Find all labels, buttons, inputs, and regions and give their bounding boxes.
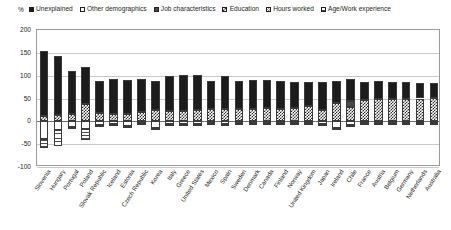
bar-column[interactable] [416,30,425,165]
bar-segment [95,125,104,127]
bar-segment [123,126,132,128]
x-axis-tick-label: Korea [148,168,163,186]
bar-segment [402,123,411,125]
axis-unit-label: % [18,6,24,13]
bar-segment [318,82,327,110]
bar-segment [207,123,216,125]
legend-swatch-hours-worked [266,7,271,12]
bar-segment [402,82,411,99]
bar-column[interactable] [179,30,188,165]
legend-swatch-job-characteristics [154,7,159,12]
chart-legend: % Unexplained Other demographics Job cha… [18,6,398,13]
bar-column[interactable] [165,30,174,165]
bar-segment [290,82,299,108]
bar-column[interactable] [40,30,49,165]
x-axis-tick-label: France [356,168,372,188]
bar-segment [179,124,188,126]
bar-segment [193,75,202,111]
bar-column[interactable] [388,30,397,165]
bar-column[interactable] [109,30,118,165]
bar-segment [123,114,132,121]
bar-segment [40,121,49,138]
legend-item-unexplained: Unexplained [29,6,73,13]
bar-segment [304,82,313,106]
bar-column[interactable] [68,30,77,165]
bar-column[interactable] [304,30,313,165]
bar-segment [430,98,439,122]
y-axis-tick--100: -100 [18,163,31,170]
x-axis-tick-label: Italy [165,168,177,181]
bar-segment [151,128,160,130]
bar-column[interactable] [318,30,327,165]
bar-segment [290,108,299,122]
bar-segment [81,104,90,121]
bar-segment [221,124,230,126]
bar-column[interactable] [332,30,341,165]
bar-segment [95,113,104,121]
bar-segment [40,139,49,148]
bar-segment [235,123,244,125]
bar-segment [137,79,146,112]
y-axis-tick-50: 50 [24,94,31,101]
bar-segment [54,121,63,129]
legend-label-hours-worked: Hours worked [273,6,314,13]
bar-column[interactable] [430,30,439,165]
bar-segment [68,127,77,129]
bar-column[interactable] [346,30,355,165]
bar-segment [263,80,272,107]
bar-column[interactable] [276,30,285,165]
bar-segment [207,109,216,121]
bar-segment [193,124,202,126]
y-axis-tick-0: 0 [27,117,31,124]
bar-segment [346,125,355,127]
bar-segment [318,110,327,121]
bar-column[interactable] [81,30,90,165]
bar-segment [109,114,118,121]
bar-segment [68,71,77,114]
bar-column[interactable] [54,30,63,165]
bar-column[interactable] [374,30,383,165]
bar-segment [430,123,439,125]
bar-segment [81,67,90,104]
bar-column[interactable] [290,30,299,165]
bar-segment [235,81,244,109]
bar-segment [109,124,118,126]
legend-swatch-education [222,7,227,12]
bar-column[interactable] [263,30,272,165]
bar-segment [388,123,397,125]
bar-segment [276,81,285,108]
legend-item-age-work-experience: Age/Work experience [321,6,391,13]
bar-column[interactable] [137,30,146,165]
bar-segment [165,124,174,126]
bar-column[interactable] [235,30,244,165]
legend-swatch-other-demographics [80,7,85,12]
bar-segment [249,80,258,109]
legend-item-education: Education [222,6,259,13]
bar-column[interactable] [193,30,202,165]
bar-column[interactable] [360,30,369,165]
plot-area [36,29,440,166]
bar-segment [318,124,327,126]
bar-segment [276,123,285,125]
bar-segment [137,123,146,125]
bar-segment [221,76,230,110]
bar-segment [388,99,397,121]
bar-segment [249,109,258,121]
y-axis-tick-200: 200 [20,26,31,33]
legend-label-job-characteristics: Job characteristics [161,6,216,13]
bar-column[interactable] [123,30,132,165]
bar-column[interactable] [151,30,160,165]
bar-column[interactable] [95,30,104,165]
bar-column[interactable] [249,30,258,165]
bar-segment [346,79,355,101]
bar-column[interactable] [207,30,216,165]
bar-segment [179,111,188,121]
bar-column[interactable] [221,30,230,165]
bar-segment [54,56,63,114]
x-axis-labels: SloveniaHungaryPortugalPolandSlovak Repu… [36,168,440,230]
bar-column[interactable] [402,30,411,165]
bar-series-group [37,30,439,165]
bar-segment [137,112,146,121]
bar-segment [151,110,160,121]
bar-segment [304,123,313,125]
